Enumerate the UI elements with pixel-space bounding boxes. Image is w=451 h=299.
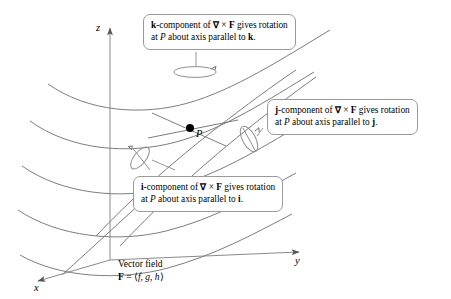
- vector-field-label: Vector field F = ⟨f, g, h⟩: [118, 258, 164, 284]
- callout-j-component: j-component of ∇ × F gives rotation at P…: [267, 99, 418, 135]
- axis-label-y: y: [295, 255, 300, 266]
- callout-i-line2: at P about axis parallel to i.: [141, 193, 275, 205]
- point-label-P: P: [196, 128, 202, 139]
- callout-j-line2: at P about axis parallel to j.: [275, 116, 410, 128]
- callout-i-line1: i-component of ∇ × F gives rotation: [141, 181, 275, 193]
- callout-j-line1: j-component of ∇ × F gives rotation: [275, 104, 410, 116]
- rotation-k: [174, 66, 216, 77]
- axis-x: [38, 260, 110, 281]
- field-curves: [18, 30, 330, 276]
- callout-k-line2: at P about axis parallel to k.: [151, 31, 288, 43]
- vector-field-line2: F = ⟨f, g, h⟩: [118, 271, 164, 284]
- curl-components-diagram: x y z P k-component of ∇ × F gives rotat…: [0, 0, 451, 299]
- point-P-marker: [186, 124, 194, 132]
- vector-field-line1: Vector field: [118, 258, 164, 271]
- rotation-j: [237, 124, 262, 155]
- callout-k-line1: k-component of ∇ × F gives rotation: [151, 19, 288, 31]
- axis-label-x: x: [34, 282, 39, 293]
- callout-k-component: k-component of ∇ × F gives rotation at P…: [143, 14, 296, 50]
- callout-i-component: i-component of ∇ × F gives rotation at P…: [133, 176, 283, 212]
- callout-leaders: [152, 52, 263, 170]
- axis-label-z: z: [96, 22, 100, 33]
